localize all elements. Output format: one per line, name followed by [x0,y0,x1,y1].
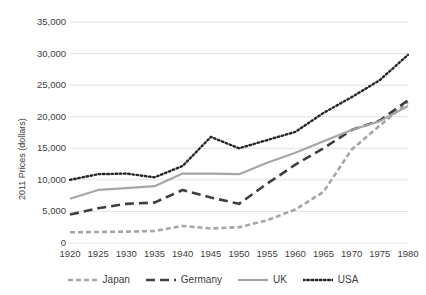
series-line-usa [70,55,408,180]
legend-swatch-usa [303,275,333,285]
plot-area [70,22,408,243]
plot-svg [70,22,408,243]
y-tick-label: 15,000 [8,143,66,153]
y-tick-label: 30,000 [8,49,66,59]
x-axis-tick-labels: 1920192519301935194019451950195519601965… [0,248,426,262]
legend-label: Japan [103,274,130,286]
series-line-uk [70,106,408,199]
y-tick-label: 0 [8,238,66,248]
legend-label: UK [273,274,287,286]
chart-legend: JapanGermanyUKUSA [0,270,426,290]
legend-item-japan[interactable]: Japan [68,274,130,286]
y-tick-label: 5,000 [8,206,66,216]
series-line-japan [70,102,408,232]
y-tick-label: 25,000 [8,80,66,90]
legend-swatch-uk [238,275,268,285]
y-tick-label: 10,000 [8,175,66,185]
y-tick-label: 20,000 [8,112,66,122]
legend-swatch-japan [68,275,98,285]
series-line-germany [70,100,408,214]
y-tick-label: 35,000 [8,17,66,27]
legend-swatch-germany [146,275,176,285]
legend-item-usa[interactable]: USA [303,274,359,286]
legend-item-uk[interactable]: UK [238,274,287,286]
x-tick-label: 1980 [388,248,426,260]
chart-container: 2011 Prices (dollars) 05,00010,00015,000… [0,0,426,295]
legend-label: USA [338,274,359,286]
legend-label: Germany [181,274,222,286]
legend-item-germany[interactable]: Germany [146,274,222,286]
